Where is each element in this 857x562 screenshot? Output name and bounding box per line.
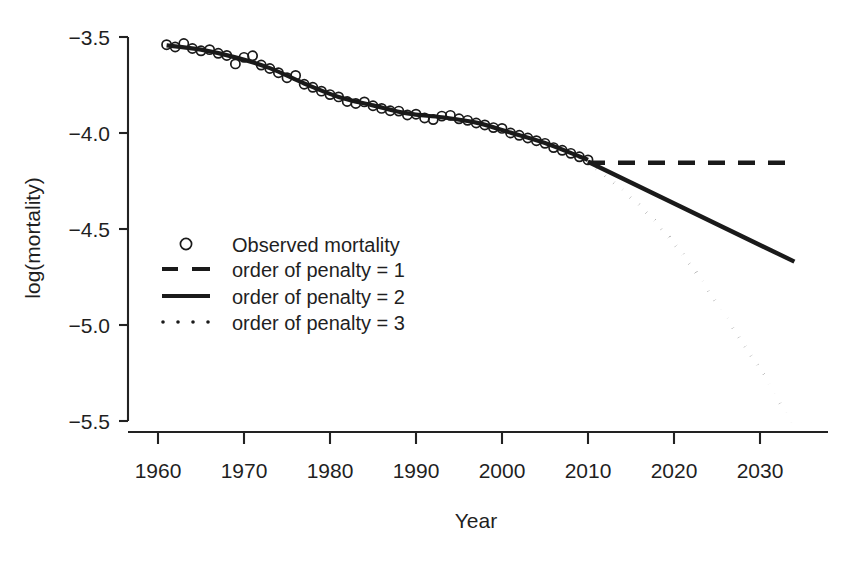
- x-tick-label-5: 2010: [565, 459, 612, 482]
- legend-label-penalty-1: order of penalty = 1: [232, 259, 405, 281]
- observed-point: [231, 59, 240, 68]
- x-tick-label-0: 1960: [135, 459, 182, 482]
- x-tick-label-6: 2020: [651, 459, 698, 482]
- observed-points: [162, 39, 593, 165]
- observed-point: [248, 51, 257, 60]
- y-tick-label-3: −5.0: [69, 314, 110, 337]
- x-tick-label-1: 1970: [221, 459, 268, 482]
- legend-label-penalty-2: order of penalty = 2: [232, 286, 405, 308]
- y-axis: −3.5 −4.0 −4.5 −5.0 −5.5 log(mortality): [21, 26, 128, 433]
- y-tick-label-1: −4.0: [69, 122, 110, 145]
- x-tick-label-4: 2000: [479, 459, 526, 482]
- legend-marker-circle-icon: [180, 238, 191, 249]
- chart-container: −3.5 −4.0 −4.5 −5.0 −5.5 log(mortality) …: [0, 0, 857, 562]
- x-tick-label-2: 1980: [307, 459, 354, 482]
- y-tick-label-2: −4.5: [69, 218, 110, 241]
- x-axis: 1960 1970 1980 1990 2000 2010 2020 2030 …: [128, 432, 828, 532]
- y-tick-label-4: −5.5: [69, 410, 110, 433]
- mortality-forecast-chart: −3.5 −4.0 −4.5 −5.0 −5.5 log(mortality) …: [0, 0, 857, 562]
- y-axis-title: log(mortality): [21, 177, 44, 298]
- legend: Observed mortality order of penalty = 1 …: [161, 234, 405, 334]
- x-tick-label-3: 1990: [393, 459, 440, 482]
- legend-label-penalty-3: order of penalty = 3: [232, 312, 405, 334]
- x-axis-title: Year: [455, 509, 497, 532]
- y-tick-label-0: −3.5: [69, 26, 110, 49]
- legend-marker-dotted-icon: [161, 320, 210, 324]
- forecast-line-penalty-2: [588, 162, 794, 262]
- x-tick-label-7: 2030: [737, 459, 784, 482]
- forecast-lines: [588, 162, 794, 427]
- forecast-line-penalty-3: [588, 162, 794, 427]
- legend-label-observed: Observed mortality: [232, 234, 400, 256]
